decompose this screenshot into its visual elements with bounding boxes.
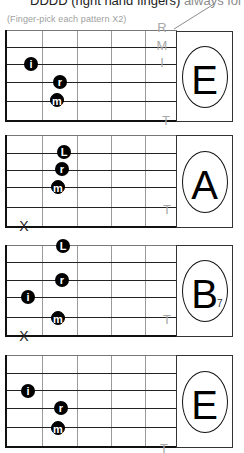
string-line (7, 153, 177, 154)
chord-name: A (183, 165, 227, 205)
nut (5, 30, 7, 122)
fret-line (111, 245, 112, 335)
chord-suffix: 7 (217, 298, 223, 309)
finger-dot-i: i (21, 290, 35, 304)
string-line (7, 30, 177, 31)
fret-line (145, 355, 146, 446)
finger-dot-m: m (51, 180, 65, 194)
nut (5, 135, 7, 228)
string-line (7, 317, 177, 318)
string-line (7, 101, 177, 102)
nut (5, 245, 7, 337)
string-line (7, 280, 177, 281)
fret-line (42, 135, 43, 226)
pick-label-t: T (163, 203, 171, 216)
fret-line (42, 30, 43, 120)
string-line (7, 408, 177, 409)
muted-string-icon: X (19, 219, 28, 233)
chord-oval: A (182, 151, 228, 213)
chord-name: E (183, 60, 227, 100)
muted-string-icon: X (19, 329, 28, 343)
fret-line (77, 355, 78, 446)
finger-dot-L: L (56, 239, 70, 253)
nut (5, 355, 7, 448)
string-line (7, 446, 177, 448)
fret-line (77, 135, 78, 226)
string-line (7, 245, 177, 246)
finger-dot-r: r (55, 273, 69, 287)
pick-label-i: I (160, 56, 164, 69)
string-line (7, 226, 177, 228)
finger-dot-m: m (51, 421, 65, 435)
fret-line (77, 30, 78, 120)
pick-label-m: M (157, 39, 168, 52)
fret-line (145, 30, 146, 120)
fret-line (145, 245, 146, 335)
finger-dot-r: r (54, 401, 68, 415)
pick-label-t: T (160, 442, 168, 453)
finger-dot-i: i (24, 57, 38, 71)
pick-label-t: T (163, 313, 171, 326)
string-line (7, 135, 177, 136)
fret-line (111, 135, 112, 226)
pick-label-r: R (157, 21, 166, 34)
string-line (7, 427, 177, 428)
string-line (7, 170, 177, 171)
finger-dot-L: L (57, 145, 71, 159)
fret-line (42, 355, 43, 446)
string-line (7, 262, 177, 263)
string-line (7, 373, 177, 374)
string-line (7, 355, 177, 356)
chord-label-box: E (176, 355, 233, 448)
fret-line (77, 245, 78, 335)
chord-label-box: B7 (176, 245, 233, 337)
chord-label-box: A (176, 135, 233, 228)
string-line (7, 47, 177, 48)
finger-dot-m: m (50, 93, 64, 107)
finger-dot-m: m (51, 311, 65, 325)
string-line (7, 207, 177, 208)
finger-dot-i: i (21, 384, 35, 398)
fret-line (145, 135, 146, 226)
fret-line (111, 30, 112, 120)
chord-label-box: E (176, 31, 233, 122)
chord-oval: E (182, 371, 228, 433)
finger-dot-r: r (55, 162, 69, 176)
chord-oval: E (182, 46, 228, 108)
string-line (7, 335, 177, 337)
fret-line (42, 245, 43, 335)
fret-line (111, 355, 112, 446)
finger-dot-r: r (53, 75, 67, 89)
pick-label-t: T (162, 114, 170, 127)
chord-oval: B7 (182, 260, 228, 322)
string-line (7, 120, 177, 122)
chord-name: E (183, 385, 227, 425)
string-line (7, 82, 177, 83)
string-line (7, 187, 177, 188)
